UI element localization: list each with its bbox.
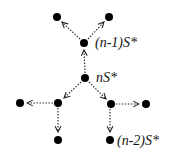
node-top-right	[105, 13, 113, 21]
label-n-minus-1: (n-1)S*	[95, 36, 137, 50]
node-bottom-left	[54, 136, 62, 144]
node-top-left	[53, 13, 61, 21]
label-n-minus-2: (n-2)S*	[117, 134, 159, 148]
edge-n-to-n-minus-1	[84, 50, 85, 73]
tree-diagram	[0, 0, 179, 155]
node-n	[81, 74, 89, 82]
label-n: nS*	[96, 71, 117, 85]
edge-n-to-left-mid	[64, 82, 81, 98]
node-n-minus-1	[80, 39, 88, 47]
label-n-text: nS*	[96, 70, 117, 85]
node-far-left	[16, 99, 24, 107]
label-n-minus-1-text: (n-1)S*	[95, 35, 137, 50]
label-n-minus-2-text: (n-2)S*	[117, 133, 159, 148]
node-far-right	[142, 100, 150, 108]
edge-n-minus-1-to-top-left	[62, 22, 80, 39]
node-right-mid	[107, 100, 115, 108]
node-left-mid	[54, 99, 62, 107]
node-bottom-right	[106, 136, 114, 144]
